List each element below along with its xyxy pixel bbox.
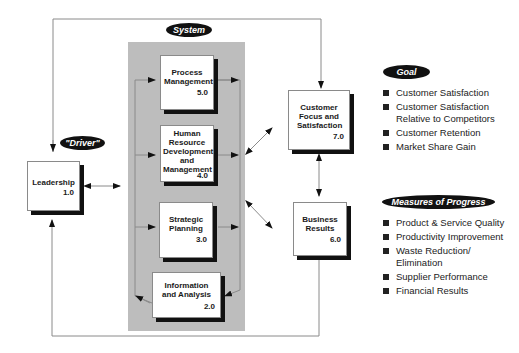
process-management-number: 5.0 [197, 88, 208, 97]
goal-item: Customer Retention [383, 127, 513, 139]
bullet-icon [383, 220, 389, 226]
bullet-icon [383, 104, 389, 110]
measures-list: Product & Service Quality Productivity I… [383, 217, 517, 299]
measures-item: Supplier Performance [383, 271, 517, 283]
goal-label: Goal [383, 65, 430, 79]
strategic-planning-title: Strategic Planning [160, 215, 212, 233]
customer-focus-number: 7.0 [333, 132, 344, 141]
system-label: System [166, 23, 212, 37]
bullet-icon [383, 248, 389, 254]
bullet-icon [383, 144, 389, 150]
information-analysis-number: 2.0 [204, 302, 215, 311]
leadership-number: 1.0 [63, 188, 74, 197]
system-label-text: System [173, 25, 205, 35]
human-resource-box: Human Resource Development and Managemen… [160, 125, 214, 182]
strategic-planning-number: 3.0 [196, 235, 207, 244]
measures-item: Productivity Improvement [383, 231, 517, 243]
measures-label-text: Measures of Progress [391, 197, 485, 207]
human-resource-title: Human Resource Development and Managemen… [161, 129, 213, 174]
leadership-box: Leadership 1.0 [27, 161, 80, 211]
process-management-box: Process Management 5.0 [160, 55, 214, 110]
process-management-title: Process Management [161, 68, 213, 86]
information-analysis-title: Information and Analysis [153, 281, 220, 299]
human-resource-number: 4.0 [197, 171, 208, 180]
business-results-number: 6.0 [330, 235, 341, 244]
bullet-icon [383, 90, 389, 96]
bullet-icon [383, 274, 389, 280]
leadership-title: Leadership [28, 178, 79, 187]
measures-item: Waste Reduction/ Elimination [383, 245, 491, 269]
information-analysis-box: Information and Analysis 2.0 [152, 272, 221, 318]
measures-item: Product & Service Quality [383, 217, 517, 229]
goal-list: Customer Satisfaction Customer Satisfact… [383, 87, 513, 155]
bullet-icon [383, 130, 389, 136]
goal-item: Market Share Gain [383, 141, 513, 153]
measures-item: Financial Results [383, 285, 517, 297]
driver-label-text: "Driver" [65, 138, 100, 148]
goal-label-text: Goal [396, 67, 416, 77]
business-results-title: Business Results [294, 215, 346, 233]
measures-label: Measures of Progress [382, 195, 495, 209]
driver-label: "Driver" [60, 136, 105, 150]
customer-focus-title: Customer Focus and Satisfaction [289, 103, 349, 130]
bullet-icon [383, 288, 389, 294]
business-results-box: Business Results 6.0 [293, 202, 347, 256]
strategic-planning-box: Strategic Planning 3.0 [159, 202, 213, 258]
bullet-icon [383, 234, 389, 240]
goal-item: Customer Satisfaction [383, 87, 513, 99]
customer-focus-box: Customer Focus and Satisfaction 7.0 [288, 90, 350, 150]
goal-item: Customer Satisfaction Relative to Compet… [383, 101, 513, 125]
